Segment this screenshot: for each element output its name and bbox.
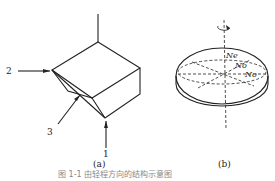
diagram-canvas <box>0 0 275 181</box>
figure-caption: 图 1-1 由轻程方向的结构示意图 <box>58 168 172 179</box>
axis-ne-label: Ne <box>226 52 238 60</box>
arrow-2-label: 2 <box>6 67 12 76</box>
subfigure-b-label: (b) <box>218 159 231 169</box>
prism-figure <box>18 14 140 148</box>
arrow-1-label: 1 <box>103 150 109 159</box>
axis-no-label-2: No <box>245 71 257 79</box>
axis-no-label-1: No <box>235 62 247 70</box>
arrow-3-label: 3 <box>47 128 53 137</box>
